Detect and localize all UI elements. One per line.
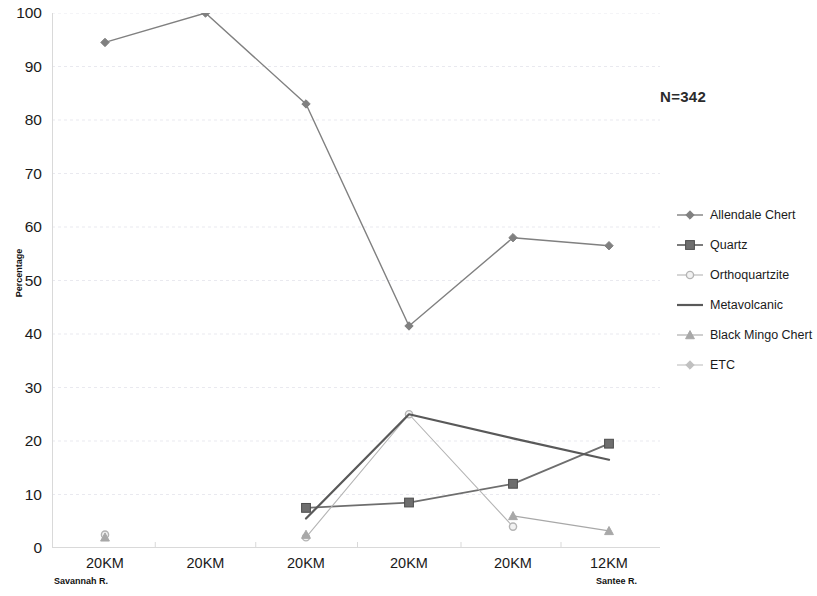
- legend-label: Allendale Chert: [710, 209, 795, 222]
- y-axis-tick-10: 10: [6, 487, 42, 503]
- y-axis-tick-60: 60: [6, 219, 42, 235]
- data-point-marker: [686, 361, 694, 369]
- data-point-marker: [405, 498, 414, 507]
- legend-item-allendale-chert[interactable]: Allendale Chert: [676, 200, 816, 230]
- data-point-marker: [101, 38, 109, 46]
- legend-item-black-mingo-chert[interactable]: Black Mingo Chert: [676, 320, 816, 350]
- y-axis-tick-labels: 1009080706050403020100: [0, 0, 42, 596]
- y-axis-tick-80: 80: [6, 112, 42, 128]
- x-axis-tick-5: 12KM: [554, 556, 664, 572]
- y-axis-tick-30: 30: [6, 380, 42, 396]
- data-point-marker: [509, 512, 518, 520]
- legend-item-etc[interactable]: ETC: [676, 350, 816, 380]
- sample-size-annotation: N=342: [660, 88, 706, 105]
- y-axis-tick-20: 20: [6, 433, 42, 449]
- y-axis-tick-100: 100: [6, 5, 42, 21]
- legend-item-quartz[interactable]: Quartz: [676, 230, 816, 260]
- x-axis-sublabel-right: Santee R.: [596, 576, 637, 586]
- plot-svg: [52, 13, 660, 548]
- data-point-marker: [686, 241, 695, 250]
- x-axis-tick-1: 20KM: [151, 556, 261, 572]
- chart-legend: Allendale ChertQuartzOrthoquartziteMetav…: [676, 200, 816, 380]
- legend-label: Quartz: [710, 239, 748, 252]
- x-axis-tick-2: 20KM: [251, 556, 361, 572]
- y-axis-tick-0: 0: [6, 540, 42, 556]
- series-black-mingo-chert: [101, 512, 614, 542]
- legend-item-metavolcanic[interactable]: Metavolcanic: [676, 290, 816, 320]
- x-axis-tick-0: 20KM: [50, 556, 160, 572]
- data-point-marker: [302, 503, 311, 512]
- x-axis-tick-labels: 20KM20KM20KM20KM20KM12KMSavannah R.Sante…: [52, 556, 660, 596]
- line-chart: Percentage 1009080706050403020100 20KM20…: [0, 0, 817, 596]
- data-point-marker: [686, 271, 693, 278]
- data-point-marker: [509, 523, 516, 530]
- legend-label: Metavolcanic: [710, 299, 783, 312]
- legend-marker-icon: [676, 268, 704, 282]
- legend-marker-icon: [676, 358, 704, 372]
- x-axis-tick-3: 20KM: [354, 556, 464, 572]
- series-orthoquartzite: [101, 411, 516, 541]
- plot-area: [52, 13, 660, 548]
- series-line: [105, 13, 609, 326]
- data-point-marker: [605, 242, 613, 250]
- legend-marker-icon: [676, 298, 704, 312]
- y-axis-tick-70: 70: [6, 166, 42, 182]
- data-point-marker: [686, 211, 694, 219]
- legend-label: Black Mingo Chert: [710, 329, 812, 342]
- y-axis-tick-90: 90: [6, 59, 42, 75]
- data-point-marker: [509, 479, 518, 488]
- legend-marker-icon: [676, 208, 704, 222]
- series-line: [306, 414, 513, 537]
- x-axis-tick-4: 20KM: [458, 556, 568, 572]
- series-allendale-chert: [101, 13, 613, 330]
- series-line: [513, 516, 609, 531]
- legend-item-orthoquartzite[interactable]: Orthoquartzite: [676, 260, 816, 290]
- data-point-marker: [605, 439, 614, 448]
- x-axis-sublabel-left: Savannah R.: [54, 576, 108, 586]
- legend-marker-icon: [676, 238, 704, 252]
- legend-marker-icon: [676, 328, 704, 342]
- y-axis-tick-40: 40: [6, 326, 42, 342]
- series-line: [306, 444, 609, 508]
- y-axis-tick-50: 50: [6, 273, 42, 289]
- legend-label: Orthoquartzite: [710, 269, 789, 282]
- legend-label: ETC: [710, 359, 735, 372]
